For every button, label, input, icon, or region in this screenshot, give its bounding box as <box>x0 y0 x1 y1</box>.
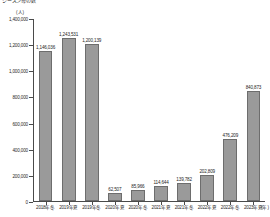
bar-value-label: 62,507 <box>108 187 121 192</box>
bar[interactable] <box>247 91 261 201</box>
x-axis-tick-label: 2021年夏 <box>152 205 171 211</box>
y-axis-tick <box>29 45 33 46</box>
bar-slot: 62,507 <box>108 19 122 201</box>
x-axis-tick-label: 2022年夏 <box>198 205 217 211</box>
y-axis-tick <box>29 71 33 72</box>
x-axis-tick-label: 2020年冬 <box>128 205 147 211</box>
y-axis-tick-label: 400,000 <box>12 147 28 152</box>
bar-value-label: 202,809 <box>199 169 215 174</box>
y-axis-tick-labels: 0200,000400,000600,000800,0001,000,0001,… <box>0 19 33 202</box>
y-axis-tick-label: 600,000 <box>12 121 28 126</box>
bar[interactable] <box>177 183 191 201</box>
y-axis-tick <box>29 97 33 98</box>
y-axis-tick <box>29 19 33 20</box>
x-axis-tick-label: 2018年冬 <box>36 205 55 211</box>
bar-slot: 85,966 <box>131 19 145 201</box>
x-axis-unit-label: (年) <box>261 205 269 211</box>
bar-slot: 476,209 <box>223 19 237 201</box>
bar[interactable] <box>200 175 214 202</box>
y-axis-tick-label: 1,200,000 <box>9 43 28 48</box>
bar-value-label: 1,243,531 <box>59 32 78 37</box>
y-axis-tick-label: 1,000,000 <box>9 69 28 74</box>
y-axis-tick-label: 1,400,000 <box>9 17 28 22</box>
bar-value-label: 476,209 <box>223 133 239 138</box>
bar[interactable] <box>85 44 99 201</box>
y-axis-tick <box>29 124 33 125</box>
bar[interactable] <box>108 193 122 201</box>
x-axis-tick-label: 2022年冬 <box>221 205 240 211</box>
chart-caption: シーズン毎の数 <box>2 0 36 3</box>
bar[interactable] <box>131 190 145 201</box>
y-axis-tick-label: 0 <box>26 200 28 205</box>
bar-value-label: 85,966 <box>131 184 144 189</box>
bar[interactable] <box>39 51 53 201</box>
bar-slot: 114,644 <box>154 19 168 201</box>
bar-slot: 1,146,036 <box>39 19 53 201</box>
bar-value-label: 1,200,139 <box>82 38 101 43</box>
bar-value-label: 114,644 <box>153 180 168 185</box>
bar-series: 1,146,0361,243,5311,200,13962,50785,9661… <box>34 19 265 201</box>
bar-slot: 202,809 <box>200 19 214 201</box>
y-axis-tick <box>29 202 33 203</box>
bar-slot: 840,873 <box>247 19 261 201</box>
bar-value-label: 1,146,036 <box>36 45 55 50</box>
bar-slot: 139,782 <box>177 19 191 201</box>
x-axis-tick-label: 2019年夏 <box>59 205 78 211</box>
bar-slot: 1,243,531 <box>62 19 76 201</box>
bar[interactable] <box>223 139 237 201</box>
bar[interactable] <box>154 186 168 201</box>
y-axis-tick <box>29 176 33 177</box>
y-axis-tick-label: 800,000 <box>12 95 28 100</box>
bar-value-label: 840,873 <box>246 85 262 90</box>
x-axis-tick-labels: 2018年冬2019年夏2019年冬2020年夏2020年冬2021年夏2021… <box>34 205 265 217</box>
x-axis-tick-label: 2020年夏 <box>105 205 124 211</box>
plot-area: 1,146,0361,243,5311,200,13962,50785,9661… <box>33 19 265 202</box>
y-axis-unit-label: (人) <box>16 10 24 15</box>
bar-value-label: 139,782 <box>176 177 192 182</box>
x-axis-tick-label: 2019年冬 <box>82 205 101 211</box>
y-axis-tick-label: 200,000 <box>12 173 28 178</box>
bar-chart: シーズン毎の数 (人) 0200,000400,000600,000800,00… <box>0 0 270 217</box>
y-axis-tick <box>29 150 33 151</box>
bar-slot: 1,200,139 <box>85 19 99 201</box>
x-axis-tick-label: 2021年冬 <box>175 205 194 211</box>
bar[interactable] <box>62 38 76 201</box>
